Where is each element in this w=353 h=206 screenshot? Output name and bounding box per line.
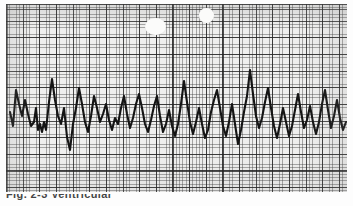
ecg-waveform-path xyxy=(10,70,346,150)
cut-off-caption: Fig. 2-3 Ventricular xyxy=(6,194,126,206)
white-blob-right xyxy=(199,8,214,23)
ecg-screenshot: Fig. 2-3 Ventricular xyxy=(0,0,353,206)
white-blob-left xyxy=(145,18,166,35)
ecg-graph-paper xyxy=(6,4,347,192)
ecg-waveform xyxy=(6,4,347,192)
cut-off-caption-text: Fig. 2-3 Ventricular xyxy=(6,194,112,200)
